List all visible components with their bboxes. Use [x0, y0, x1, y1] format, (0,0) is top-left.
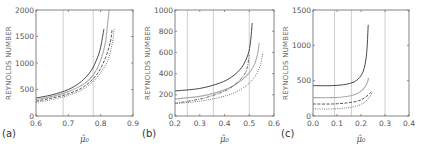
x-tick-label: 0.2 [169, 119, 181, 128]
y-tick-label: 400 [159, 69, 174, 78]
axes-box [175, 10, 274, 116]
chart-panel-a: 05001000150020000.60.70.80.9REYNOLDS NUM… [2, 6, 139, 144]
x-axis-title: μ̂₀ [80, 134, 90, 144]
x-tick-label: 0.6 [268, 119, 280, 128]
y-tick-label: 600 [159, 48, 174, 57]
series-dash-dot [175, 55, 249, 103]
y-tick-label: 2000 [15, 6, 34, 15]
x-tick-label: 0.1 [331, 119, 343, 128]
panel-label: (a) [2, 128, 16, 139]
series-solid [313, 25, 368, 86]
x-tick-label: 0.0 [307, 119, 319, 128]
x-tick-label: 0.5 [243, 119, 255, 128]
chart-panel-c: 0500100015000.00.10.20.30.4REYNOLDS NUMB… [281, 6, 415, 144]
x-tick-label: 0.4 [403, 119, 415, 128]
chart-panel-b: 020040060080010000.20.30.40.50.6REYNOLDS… [142, 6, 280, 144]
panel-label: (c) [281, 128, 294, 139]
series-gray [313, 78, 369, 98]
y-axis-title: REYNOLDS NUMBER [282, 26, 290, 100]
figure: 05001000150020000.60.70.80.9REYNOLDS NUM… [0, 0, 422, 149]
x-axis-title: μ̂₀ [220, 134, 230, 144]
x-tick-label: 0.2 [355, 119, 367, 128]
y-axis-title: REYNOLDS NUMBER [144, 26, 152, 100]
y-tick-label: 1500 [292, 6, 311, 15]
y-tick-label: 500 [297, 76, 312, 85]
x-tick-label: 0.7 [62, 119, 74, 128]
x-tick-label: 0.3 [379, 119, 391, 128]
y-tick-label: 200 [159, 90, 174, 99]
x-axis-title: μ̂₀ [357, 134, 367, 144]
x-tick-label: 0.9 [127, 119, 139, 128]
x-tick-label: 0.8 [95, 119, 107, 128]
x-tick-label: 0.6 [30, 119, 42, 128]
x-tick-label: 0.3 [194, 119, 206, 128]
panel-label: (b) [142, 128, 156, 139]
series-dotted [313, 93, 372, 109]
y-tick-label: 1000 [15, 59, 34, 68]
y-tick-label: 1000 [154, 6, 173, 15]
axes-box [36, 10, 133, 116]
series-solid [36, 29, 104, 98]
y-tick-label: 500 [20, 85, 35, 94]
y-axis-title: REYNOLDS NUMBER [5, 26, 13, 100]
series-dashed [36, 30, 112, 101]
y-tick-label: 1500 [15, 32, 34, 41]
y-tick-label: 800 [159, 27, 174, 36]
axes-box [313, 10, 409, 116]
y-tick-label: 1000 [292, 41, 311, 50]
x-tick-label: 0.4 [219, 119, 231, 128]
